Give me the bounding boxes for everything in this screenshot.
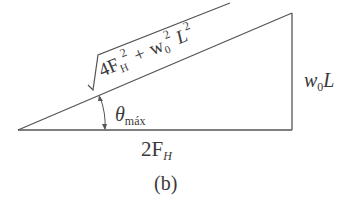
vertical-label-base: w [304,69,318,91]
term1-exponent: 2 [118,45,129,60]
figure-caption: (b) [154,172,177,195]
angle-subscript: máx [125,114,146,128]
term1-coefficient: 4F [95,54,122,81]
horizontal-side-label: 2FH [141,137,173,163]
vertical-label-tail: L [322,69,334,91]
angle-label: θmáx [115,103,146,128]
angle-symbol: θ [115,103,125,125]
vertical-side-label: w0L [304,69,334,94]
angle-arrow-bottom-icon [102,124,107,130]
horizontal-label-subscript: H [162,149,173,163]
plus-sign: + [130,42,148,66]
hypotenuse-line [18,13,292,130]
term2-exponent: 2 [161,27,172,42]
horizontal-label-coefficient: 2F [141,137,163,161]
triangle-diagram: 4FH2+w02L2 θmáx w0L 2FH (b) [0,0,341,201]
